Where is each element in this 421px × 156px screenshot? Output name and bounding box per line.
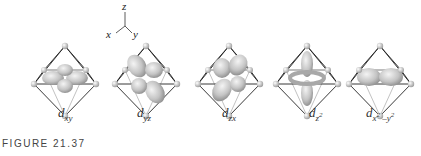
orbital-dz2-diagram (270, 40, 344, 120)
label-dz2: dz2 (309, 105, 323, 123)
axes-diagram: z x y (100, 4, 150, 44)
figure-label: FIGURE 21.37 (2, 138, 86, 149)
label-dzx: dzx (222, 105, 236, 123)
z-axis-label: z (122, 0, 126, 12)
label-dyz: dyz (137, 105, 151, 123)
y-axis-label: y (133, 28, 138, 40)
label-dx2-y2: dx2 –y2 (366, 105, 394, 123)
label-dxy: dxy (58, 105, 73, 123)
x-axis-label: x (106, 28, 111, 40)
